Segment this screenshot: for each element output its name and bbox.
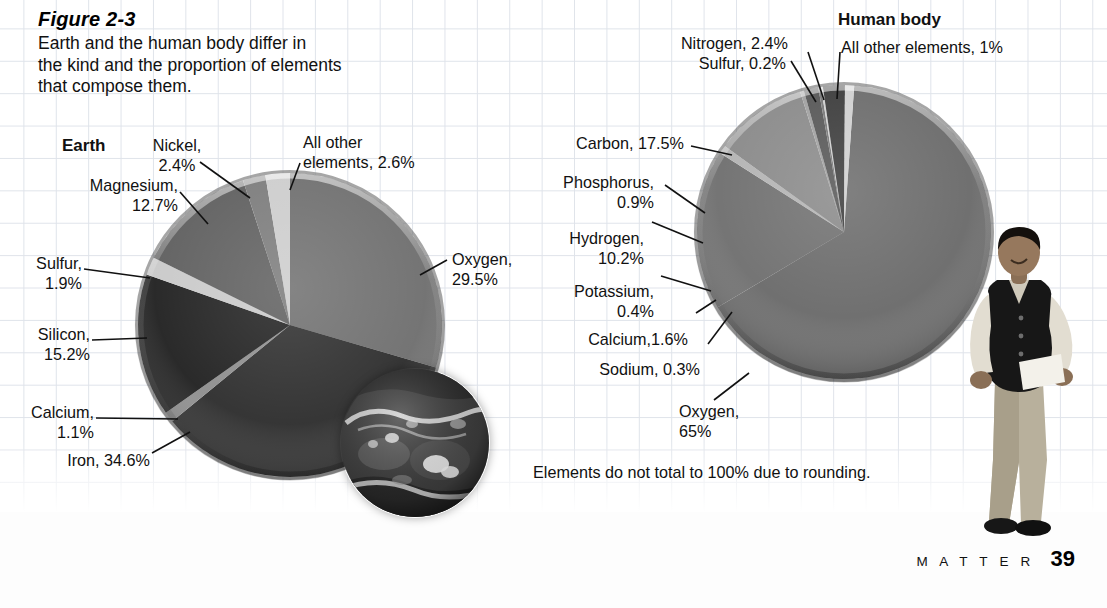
figure-page: Figure 2-3 Earth and the human body diff… xyxy=(0,0,1107,608)
footer-section-name: M A T T E R xyxy=(917,554,1035,569)
page-footer: M A T T E R 39 xyxy=(917,546,1075,572)
label-body-oxygen: Oxygen, 65% xyxy=(679,402,819,441)
figure-caption-text: Earth and the human body differ in the k… xyxy=(38,33,438,98)
label-earth-calcium: Calcium, 1.1% xyxy=(0,403,94,442)
label-body-hydrogen: Hydrogen, 10.2% xyxy=(478,229,644,268)
label-body-sodium: Sodium, 0.3% xyxy=(478,360,700,380)
rounding-footnote: Elements do not total to 100% due to rou… xyxy=(533,463,870,482)
earth-globe-photo xyxy=(340,368,490,518)
label-earth-sulfur: Sulfur, 1.9% xyxy=(0,254,82,293)
label-earth-magnesium: Magnesium, 12.7% xyxy=(8,176,178,215)
figure-number: Figure 2-3 xyxy=(38,8,438,31)
human-body-pie-svg xyxy=(694,82,996,384)
footer-page-number: 39 xyxy=(1051,546,1075,572)
figure-caption-block: Figure 2-3 Earth and the human body diff… xyxy=(38,8,438,98)
label-body-sulfur: Sulfur, 0.2% xyxy=(576,54,786,74)
label-body-all-other: All other elements, 1% xyxy=(841,38,1091,58)
student-photo xyxy=(955,222,1083,538)
label-earth-nickel: Nickel, 2.4% xyxy=(131,136,223,175)
human-body-chart-title: Human body xyxy=(838,10,941,30)
caption-line-1: Earth and the human body differ in xyxy=(38,33,438,55)
human-body-pie-chart xyxy=(694,82,996,384)
caption-line-2: the kind and the proportion of elements xyxy=(38,55,438,77)
caption-line-3: that compose them. xyxy=(38,76,438,98)
label-body-nitrogen: Nitrogen, 2.4% xyxy=(576,34,788,54)
label-earth-iron: Iron, 34.6% xyxy=(0,451,150,471)
label-body-potassium: Potassium, 0.4% xyxy=(478,282,654,321)
label-body-calcium: Calcium,1.6% xyxy=(478,330,688,350)
label-body-phosphorus: Phosphorus, 0.9% xyxy=(478,173,654,212)
label-body-carbon: Carbon, 17.5% xyxy=(478,134,684,154)
earth-chart-title: Earth xyxy=(62,136,105,156)
label-earth-all-other: All other elements, 2.6% xyxy=(303,133,483,172)
label-earth-silicon: Silicon, 15.2% xyxy=(0,325,90,364)
